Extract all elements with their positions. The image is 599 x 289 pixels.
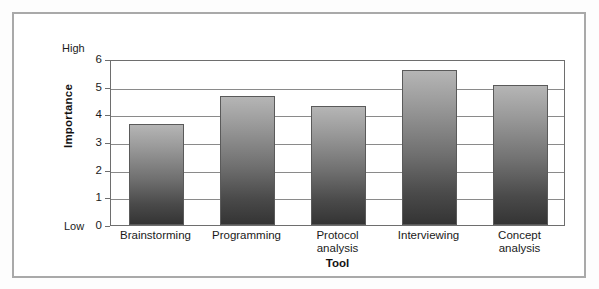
y-tick-mark xyxy=(105,226,110,227)
bar xyxy=(129,124,184,225)
y-tick-label: 6 xyxy=(82,54,102,66)
y-tick-label: 4 xyxy=(82,109,102,121)
y-axis-high-label: High xyxy=(62,42,85,54)
x-label-line: analysis xyxy=(284,242,391,255)
x-label-line: analysis xyxy=(466,242,573,255)
y-tick-label: 3 xyxy=(82,137,102,149)
y-tick-label: 5 xyxy=(82,82,102,94)
bar xyxy=(311,106,366,225)
x-axis-title: Tool xyxy=(110,257,565,269)
bar xyxy=(493,85,548,225)
figure-frame: Importance High Low 6543210 Brainstormin… xyxy=(12,12,586,278)
y-axis-ticks: 6543210 xyxy=(70,60,110,226)
bar xyxy=(402,70,457,225)
plot-area xyxy=(110,60,565,226)
y-tick-label: 0 xyxy=(82,220,102,232)
figure-container: Importance High Low 6543210 Brainstormin… xyxy=(0,0,599,289)
x-label-line: Concept xyxy=(466,229,573,242)
x-category-label: Conceptanalysis xyxy=(466,229,573,255)
y-tick-label: 1 xyxy=(82,192,102,204)
y-tick-label: 2 xyxy=(82,165,102,177)
bar xyxy=(220,96,275,225)
